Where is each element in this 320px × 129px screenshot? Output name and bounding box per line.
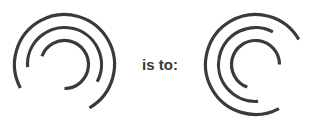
right-figure-container bbox=[191, 0, 320, 129]
middle-arc bbox=[219, 27, 273, 101]
relation-label: is to: bbox=[129, 0, 191, 129]
analogy-puzzle: is to: bbox=[0, 0, 320, 129]
left-figure-container bbox=[0, 0, 129, 129]
middle-arc bbox=[28, 28, 102, 82]
inner-arc bbox=[232, 40, 280, 87]
spiral-arcs-figure-b bbox=[191, 0, 320, 129]
right-arc-group bbox=[205, 15, 298, 115]
inner-arc bbox=[42, 41, 89, 89]
spiral-arcs-figure-a bbox=[0, 0, 129, 129]
left-arc-group bbox=[14, 14, 114, 107]
